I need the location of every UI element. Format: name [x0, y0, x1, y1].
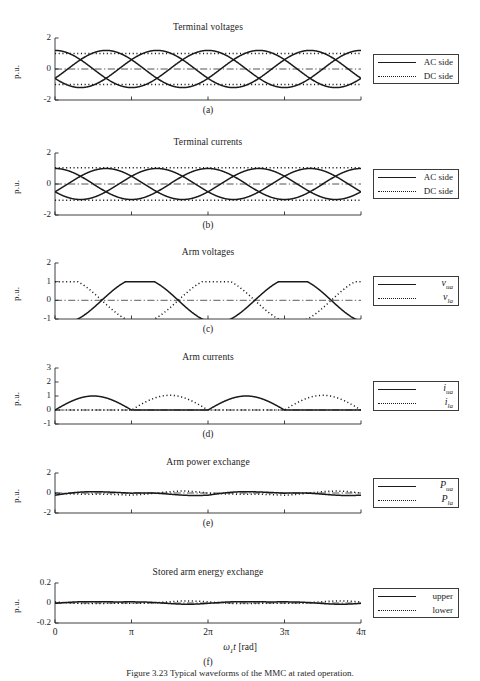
plot-area-e: [0, 0, 480, 681]
panel-title-e: Arm power exchange: [55, 457, 361, 467]
x-tick-label: 3π: [265, 627, 305, 637]
legend-swatch-dotted-icon: [378, 403, 416, 404]
y-tick-label: 1: [21, 276, 51, 286]
y-tick-label: 0: [21, 597, 51, 607]
legend-label-c-1: vla: [421, 291, 453, 305]
y-axis-label-e: p.u.: [11, 489, 21, 503]
y-tick-label: 0.2: [21, 577, 51, 587]
legend-entry-d-0: iua: [374, 382, 458, 396]
series-line-c-0: [55, 282, 361, 323]
legend-entry-b-0: AC side: [374, 170, 458, 184]
y-tick-label: -2: [21, 507, 51, 517]
x-axis-title: ω1t [rad]: [0, 642, 480, 655]
y-tick-label: 2: [21, 32, 51, 42]
panel-letter-a: (a): [55, 105, 361, 115]
series-line-e-0: [55, 492, 361, 496]
figure-root: Terminal voltages-202p.u.(a)AC sideDC si…: [0, 0, 480, 681]
legend-label-a-0: AC side: [421, 57, 453, 67]
series-line-b-2: [55, 169, 361, 200]
x-axis-time-symbol: t: [233, 642, 236, 652]
legend-a: AC sideDC side: [373, 54, 459, 84]
y-tick-label: 2: [21, 147, 51, 157]
legend-swatch-solid-icon: [378, 389, 416, 390]
legend-entry-a-1: DC side: [374, 69, 458, 83]
panel-letter-e: (e): [55, 518, 361, 528]
legend-c: vuavla: [373, 276, 459, 306]
series-line-f-1: [55, 601, 361, 604]
legend-entry-d-1: ila: [374, 396, 458, 410]
series-line-a-0: [55, 50, 361, 87]
panel-title-c: Arm voltages: [55, 247, 361, 257]
y-tick-label: 0: [21, 404, 51, 414]
panel-letter-d: (d): [55, 429, 361, 439]
series-line-c-1: [55, 282, 361, 323]
y-tick-label: 0: [21, 294, 51, 304]
y-tick-label: -1: [21, 418, 51, 428]
y-tick-label: -2: [21, 209, 51, 219]
legend-label-d-1: ila: [421, 396, 453, 410]
x-axis-omega-symbol: ω: [223, 642, 230, 652]
series-line-d-0: [55, 396, 361, 410]
y-tick-label: 2: [21, 376, 51, 386]
panel-letter-f: (f): [55, 657, 361, 667]
legend-label-f-0: upper: [421, 591, 453, 601]
series-line-b-1: [55, 169, 361, 200]
plot-area-d: [0, 0, 480, 681]
legend-label-a-1: DC side: [421, 71, 453, 81]
legend-label-b-0: AC side: [421, 172, 453, 182]
x-tick-label: 0: [35, 627, 75, 637]
legend-label-e-1: Pla: [421, 493, 453, 507]
legend-swatch-solid-icon: [378, 596, 416, 597]
y-tick-label: 0: [21, 487, 51, 497]
x-tick-label: 4π: [341, 627, 381, 637]
plot-area-b: [0, 0, 480, 681]
series-line-f-0: [55, 602, 361, 605]
plot-area-f: [0, 0, 480, 681]
panel-title-a: Terminal voltages: [55, 22, 361, 32]
legend-symbol-subscript: la: [448, 402, 453, 410]
y-tick-label: 2: [21, 467, 51, 477]
series-line-e-1: [55, 491, 361, 495]
legend-symbol-subscript: la: [448, 499, 453, 507]
y-axis-label-d: p.u.: [11, 392, 21, 406]
y-tick-label: -0.2: [21, 617, 51, 627]
legend-entry-b-1: DC side: [374, 184, 458, 198]
legend-symbol-subscript: la: [448, 297, 453, 305]
y-tick-label: 0: [21, 63, 51, 73]
y-axis-label-b: p.u.: [11, 180, 21, 194]
plot-area-c: [0, 0, 480, 681]
legend-symbol-subscript: ua: [446, 283, 453, 291]
legend-label-c-0: vua: [421, 277, 453, 291]
legend-swatch-solid-icon: [378, 284, 416, 285]
legend-entry-c-1: vla: [374, 291, 458, 305]
series-line-d-1: [55, 395, 361, 410]
legend-d: iuaila: [373, 381, 459, 411]
panel-title-b: Terminal currents: [55, 137, 361, 147]
y-tick-label: -2: [21, 94, 51, 104]
legend-e: PuaPla: [373, 478, 459, 508]
panel-letter-c: (c): [55, 324, 361, 334]
panel-letter-b: (b): [55, 220, 361, 230]
y-axis-label-f: p.u.: [11, 599, 21, 613]
series-line-b-0: [55, 169, 361, 200]
legend-entry-e-1: Pla: [374, 493, 458, 507]
legend-label-d-0: iua: [421, 382, 453, 396]
y-axis-label-a: p.u.: [11, 65, 21, 79]
legend-swatch-dotted-icon: [378, 191, 416, 192]
legend-swatch-dotted-icon: [378, 76, 416, 77]
legend-swatch-dotted-icon: [378, 298, 416, 299]
legend-swatch-dotted-icon: [378, 610, 416, 611]
legend-b: AC sideDC side: [373, 169, 459, 199]
legend-swatch-solid-icon: [378, 62, 416, 63]
legend-entry-c-0: vua: [374, 277, 458, 291]
figure-caption: Figure 3.23 Typical waveforms of the MMC…: [0, 668, 480, 678]
y-tick-label: 2: [21, 257, 51, 267]
legend-swatch-dotted-icon: [378, 500, 416, 501]
legend-label-b-1: DC side: [421, 186, 453, 196]
panel-title-f: Stored arm energy exchange: [55, 567, 361, 577]
legend-label-f-1: lower: [421, 605, 453, 615]
legend-symbol-subscript: ua: [446, 485, 453, 493]
legend-swatch-solid-icon: [378, 177, 416, 178]
legend-entry-a-0: AC side: [374, 55, 458, 69]
legend-entry-f-1: lower: [374, 603, 458, 617]
